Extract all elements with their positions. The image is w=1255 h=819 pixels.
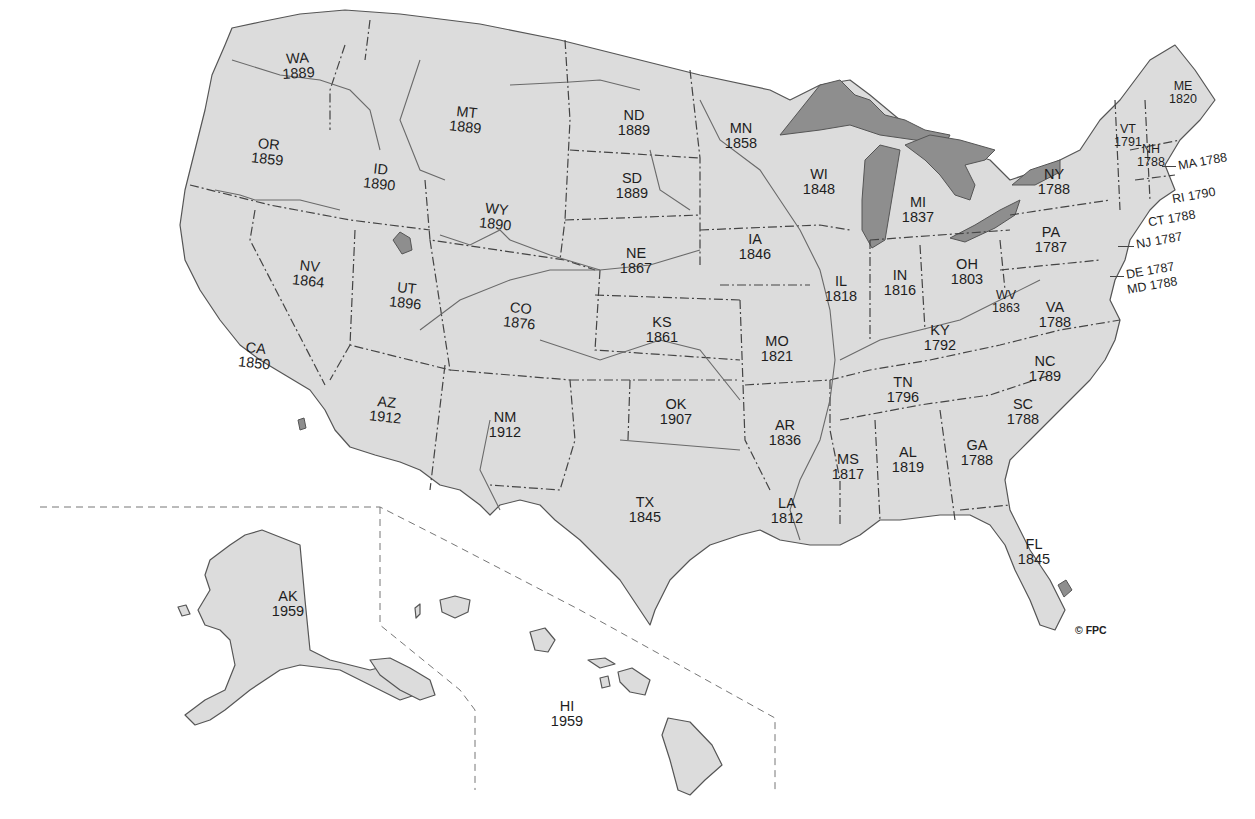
- state-label-or: OR1859: [250, 135, 285, 168]
- state-label-nm: NM1912: [489, 410, 521, 440]
- state-label-mo: MO1821: [761, 334, 793, 364]
- state-label-la: LA1812: [771, 496, 803, 526]
- state-label-wv: WV1863: [992, 289, 1020, 315]
- state-label-ar: AR1836: [769, 418, 801, 448]
- alaska-landmass: [185, 530, 430, 725]
- leader-line-de: [1110, 276, 1124, 277]
- hawaii-oahu: [530, 628, 555, 652]
- state-label-ms: MS1817: [832, 452, 864, 482]
- state-label-wi: WI1848: [803, 167, 835, 197]
- hawaii-niihau: [415, 604, 420, 618]
- state-label-tn: TN1796: [887, 375, 919, 405]
- alaska-island: [178, 605, 190, 616]
- state-label-sd: SD1889: [616, 171, 648, 201]
- state-label-co: CO1876: [502, 299, 537, 332]
- state-label-ga: GA1788: [961, 438, 993, 468]
- leader-line-nj: [1118, 246, 1134, 247]
- state-label-mi: MI1837: [902, 195, 934, 225]
- state-label-oh: OH1803: [951, 257, 983, 287]
- state-label-nc: NC1789: [1029, 354, 1061, 384]
- state-label-ak: AK1959: [272, 589, 304, 619]
- state-label-id: ID1890: [362, 160, 397, 193]
- state-label-ny: NY1788: [1038, 167, 1070, 197]
- state-label-al: AL1819: [892, 445, 924, 475]
- state-label-hi: HI1959: [551, 699, 583, 729]
- state-label-ks: KS1861: [646, 315, 678, 345]
- state-label-ia: IA1846: [739, 232, 771, 262]
- state-label-mn: MN1858: [725, 121, 757, 151]
- lake-okeechobee: [1058, 580, 1072, 597]
- state-label-pa: PA1787: [1035, 225, 1067, 255]
- state-label-va: VA1788: [1039, 300, 1071, 330]
- hawaii-maui: [618, 668, 650, 695]
- state-label-ca: CA1850: [237, 339, 272, 372]
- state-label-nd: ND1889: [618, 108, 650, 138]
- state-label-ut: UT1896: [388, 279, 423, 312]
- hawaii-molokai: [588, 658, 615, 668]
- state-label-nv: NV1864: [291, 257, 326, 290]
- copyright-notice: © FPC: [1075, 624, 1107, 636]
- state-label-az: AZ1912: [368, 393, 403, 426]
- hawaii-kauai: [440, 596, 470, 618]
- state-label-me: ME1820: [1169, 80, 1197, 106]
- state-label-sc: SC1788: [1007, 397, 1039, 427]
- state-label-il: IL1818: [825, 274, 857, 304]
- hawaii-big-island: [662, 718, 722, 795]
- salton-sea: [298, 418, 306, 430]
- state-label-ne: NE1867: [620, 246, 652, 276]
- state-label-tx: TX1845: [629, 495, 661, 525]
- hawaii-lanai: [600, 676, 610, 688]
- state-label-wy: WY1890: [478, 200, 513, 233]
- state-label-nh: NH1788: [1137, 143, 1165, 169]
- state-label-wa: WA1889: [281, 50, 315, 82]
- state-label-mt: MT1889: [448, 103, 483, 136]
- leader-line-ma: [1162, 166, 1176, 167]
- state-label-ok: OK1907: [660, 397, 692, 427]
- state-label-fl: FL1845: [1018, 537, 1050, 567]
- state-label-ky: KY1792: [924, 323, 956, 353]
- state-label-in: IN1816: [884, 268, 916, 298]
